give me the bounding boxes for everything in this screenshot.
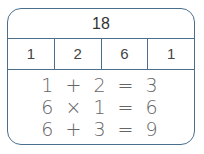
equations: 1 + 2 = 3 6 × 1 = 6 6 + 3 = 9 [8,70,194,140]
equation: 6 + 3 = 9 [8,118,194,140]
part-cell: 2 [55,39,102,69]
number-puzzle-box: 18 1 2 6 1 1 + 2 = 3 6 × 1 = 6 6 + 3 = 9 [7,8,195,145]
part-cell: 1 [148,39,194,69]
equation: 1 + 2 = 3 [8,74,194,96]
part-cell: 1 [8,39,55,69]
part-cell: 6 [102,39,149,69]
equation: 6 × 1 = 6 [8,96,194,118]
total-value: 18 [8,9,194,39]
parts-row: 1 2 6 1 [8,39,194,70]
